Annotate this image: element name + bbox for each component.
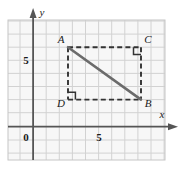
point-label-C: C: [144, 33, 152, 45]
point-label-A: A: [57, 33, 65, 45]
y-axis-label: y: [39, 6, 45, 18]
point-label-D: D: [56, 97, 65, 109]
x-tick-label-5: 5: [96, 131, 102, 143]
x-axis-arrowhead: [168, 123, 178, 130]
y-tick-label-5: 5: [23, 54, 29, 66]
y-axis-arrowhead: [30, 8, 37, 18]
coordinate-grid-figure: x y 0 5 5 A B C D: [0, 0, 179, 172]
x-axis-label: x: [159, 108, 165, 120]
origin-tick-label: 0: [23, 131, 29, 143]
point-label-B: B: [145, 97, 152, 109]
graph-canvas: x y 0 5 5 A B C D: [0, 0, 179, 172]
